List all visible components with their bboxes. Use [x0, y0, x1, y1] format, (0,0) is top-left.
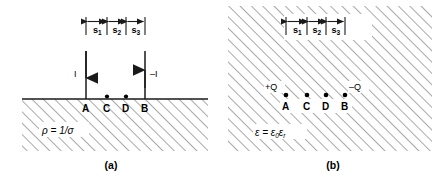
point-label-c: C [103, 103, 110, 114]
point-label-a: A [282, 101, 289, 112]
segment-label-s1: s1 [93, 25, 102, 36]
panel-b-svg: s1 s2 s3 +Q –Q A C D B ε = ε0εr [222, 0, 444, 177]
material-label-permittivity: ε = ε0εr [255, 127, 286, 139]
physics-figure-pair: s1 s2 s3 I –I A C D B [0, 0, 444, 177]
probe-dot-d [124, 94, 128, 98]
current-label-in: I [74, 69, 77, 79]
charge-label-positive: +Q [265, 82, 277, 92]
panel-b-dielectric-medium: s1 s2 s3 +Q –Q A C D B ε = ε0εr [222, 0, 444, 177]
charge-label-negative: –Q [349, 82, 361, 92]
charge-dot-a [284, 93, 289, 98]
point-label-a: A [82, 103, 89, 114]
caption-a: (a) [105, 159, 118, 171]
probe-dot-c [305, 93, 310, 98]
panel-a-conducting-half-space: s1 s2 s3 I –I A C D B [0, 0, 222, 177]
probe-dot-d [324, 93, 329, 98]
dimension-bar-a: s1 s2 s3 [86, 17, 145, 36]
panel-a-svg: s1 s2 s3 I –I A C D B [0, 0, 222, 177]
probe-dot-c [105, 94, 109, 98]
electrode-a-current-injection: I [74, 51, 86, 99]
point-label-c: C [303, 101, 310, 112]
segment-label-s2: s2 [113, 25, 122, 36]
point-label-d: D [122, 103, 129, 114]
dimension-bar-b: s1 s2 s3 [284, 14, 372, 40]
point-label-d: D [322, 101, 329, 112]
caption-b: (b) [326, 159, 339, 171]
charge-dot-b [343, 93, 348, 98]
point-label-b: B [141, 103, 148, 114]
current-label-out: –I [150, 69, 158, 79]
electrode-b-current-return: –I [145, 51, 158, 99]
point-label-b: B [341, 101, 348, 112]
material-label-resistivity: ρ = 1/σ [41, 125, 74, 136]
segment-label-s3: s3 [132, 25, 141, 36]
